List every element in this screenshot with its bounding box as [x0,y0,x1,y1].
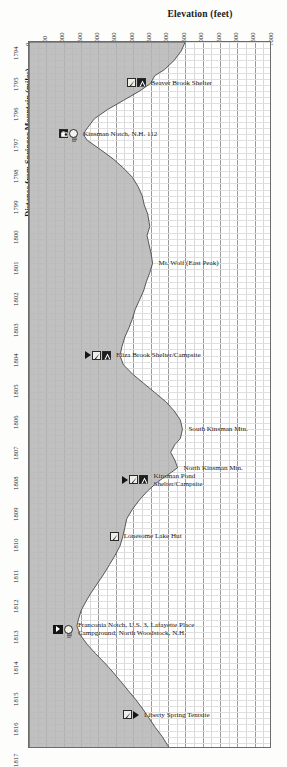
elevation-profile-page: Elevation (feet) Distance from Springer … [0,0,287,767]
water-icon [127,78,136,87]
y-tick-label: 1811 [12,569,19,582]
landmark-label: North Kinsman Mtn. [184,464,243,472]
y-tick-label: 1810 [12,538,19,552]
arrow-icon [122,476,128,484]
landmark-kinsman-pond-shelter-campsite[interactable]: Kinsman PondShelter/Campsite [122,472,202,488]
y-tick-label: 1815 [12,692,19,706]
landmark-text: Kinsman PondShelter/Campsite [153,472,202,488]
y-tick-label: 1800 [12,231,19,245]
y-tick-label: 1797 [12,139,19,153]
arrow-icon [133,711,139,719]
shelter-icon [139,475,148,484]
y-tick-label: 1799 [12,200,19,214]
landmark-lonesome-lake-hut[interactable]: Lonesome Lake Hut [110,532,182,541]
water-icon [92,351,101,360]
info-icon [64,625,73,634]
landmark-text: Kinsman Notch, N.H. 112 [83,130,157,138]
y-tick-label: 1802 [12,292,19,306]
y-tick-label: 1803 [12,323,19,337]
arrow-box-icon [53,625,63,634]
water-icon [123,710,132,719]
shelter-icon [137,78,146,87]
y-tick-label: 1801 [12,262,19,276]
landmark-text: Beaver Brook Shelter [151,79,212,87]
landmark-liberty-spring-tentsite[interactable]: Liberty Spring Tentsite [123,710,210,719]
y-tick-label: 1805 [12,385,19,399]
landmark-text: Eliza Brook Shelter/Campsite [116,351,201,359]
landmark-franconia-notch[interactable]: Franconia Notch, U.S. 3, Lafayette Place… [53,621,194,637]
y-tick-label: 1816 [12,723,19,737]
y-tick-label: 1798 [12,169,19,183]
arrow-icon [85,351,91,359]
landmark-kinsman-notch[interactable]: Kinsman Notch, N.H. 112 [59,129,157,138]
landmark-label-line2: Shelter/Campsite [153,480,202,488]
terrain-area [29,42,185,748]
chart-title: Elevation (feet) [130,9,270,19]
y-tick-label: 1806 [12,415,19,429]
landmark-label: Franconia Notch, U.S. 3, Lafayette Place [78,621,194,629]
landmark-label: South Kinsman Mtn. [188,425,247,433]
y-tick-label: 1814 [12,661,19,675]
y-tick-label: 1804 [12,354,19,368]
y-tick-label: 1809 [12,507,19,521]
y-tick-label: 1817 [12,753,19,767]
plot-area: Beaver Brook ShelterKinsman Notch, N.H. … [28,41,271,748]
landmark-eliza-brook-shelter-campsite[interactable]: Eliza Brook Shelter/Campsite [85,351,201,360]
landmark-label-line2: Campground; North Woodstock, N.H. [78,629,194,637]
landmark-beaver-brook-shelter[interactable]: Beaver Brook Shelter [127,78,212,87]
shelter-icon [102,351,111,360]
landmark-text: Liberty Spring Tentsite [144,711,210,719]
info-icon [69,129,78,138]
water-icon [129,475,138,484]
landmark-text: Lonesome Lake Hut [124,532,182,540]
landmark-text: Franconia Notch, U.S. 3, Lafayette Place… [78,621,194,637]
landmark-label: Kinsman Pond [153,472,202,480]
y-tick-label: 1808 [12,477,19,491]
y-tick-label: 1812 [12,600,19,614]
landmark-label: Mt. Wolf (East Peak) [159,259,219,267]
water-icon [110,532,119,541]
y-tick-label: 1796 [12,108,19,122]
y-tick-label: 1795 [12,77,19,91]
y-tick-label: 1813 [12,630,19,644]
y-tick-label: 1807 [12,446,19,460]
parking-icon [59,129,68,138]
terrain-profile [29,42,271,748]
y-tick-label: 1794 [12,46,19,60]
